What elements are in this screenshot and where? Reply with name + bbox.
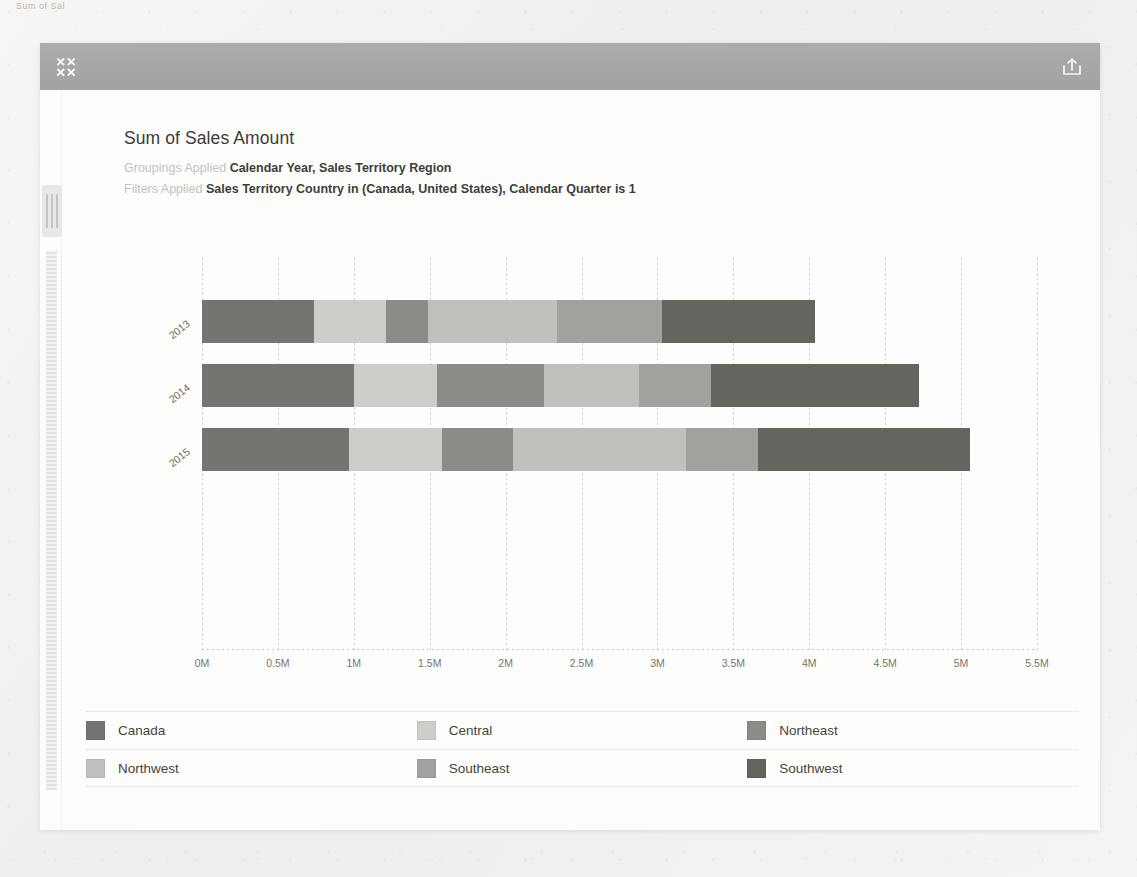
x-axis-tick-label: 4.5M xyxy=(874,657,897,669)
panel-left-spine xyxy=(40,90,62,830)
bar-segment[interactable] xyxy=(662,300,815,343)
legend-item-central[interactable]: Central xyxy=(417,721,748,740)
legend-item-canada[interactable]: Canada xyxy=(86,721,417,740)
x-axis-tick-label: 0.5M xyxy=(266,657,289,669)
groupings-applied-row: Groupings Applied Calendar Year, Sales T… xyxy=(124,158,1066,179)
drag-handle[interactable] xyxy=(42,185,62,237)
x-axis-tick-label: 3M xyxy=(650,657,665,669)
bar-segment[interactable] xyxy=(442,428,513,471)
bar-segment[interactable] xyxy=(557,300,662,343)
legend-label: Northwest xyxy=(118,761,179,776)
y-axis-category-label: 2014 xyxy=(166,381,192,405)
legend-row: CanadaCentralNortheast xyxy=(86,711,1078,749)
collapse-arrows-icon[interactable] xyxy=(54,55,78,79)
x-axis-tick-label: 0M xyxy=(195,657,210,669)
bar-segment[interactable] xyxy=(354,364,438,407)
bar-segment[interactable] xyxy=(202,428,349,471)
legend-label: Northeast xyxy=(779,723,838,738)
legend-label: Central xyxy=(449,723,493,738)
legend-label: Southwest xyxy=(779,761,842,776)
chart-legend: CanadaCentralNortheastNorthwestSoutheast… xyxy=(86,711,1078,787)
groupings-applied-label: Groupings Applied xyxy=(124,161,226,175)
corner-text: Sum of Sal xyxy=(16,1,65,11)
bar-row: 2015 xyxy=(202,428,1037,471)
x-axis-tick-label: 5.5M xyxy=(1025,657,1048,669)
filters-applied-label: Filters Applied xyxy=(124,182,203,196)
report-panel: Sum of Sales Amount Groupings Applied Ca… xyxy=(40,43,1100,830)
legend-swatch-icon xyxy=(86,721,105,740)
bar-segment[interactable] xyxy=(711,364,919,407)
legend-swatch-icon xyxy=(417,721,436,740)
x-axis-tick-label: 2.5M xyxy=(570,657,593,669)
scroll-rail[interactable] xyxy=(46,250,57,790)
legend-item-southwest[interactable]: Southwest xyxy=(747,759,1078,778)
bar-track xyxy=(202,428,1037,471)
bar-segment[interactable] xyxy=(349,428,442,471)
x-axis-tick-label: 2M xyxy=(498,657,513,669)
y-axis-category-label: 2013 xyxy=(166,317,192,341)
legend-swatch-icon xyxy=(86,759,105,778)
bar-track xyxy=(202,300,1037,343)
bar-row: 2014 xyxy=(202,364,1037,407)
x-axis-line xyxy=(202,649,1037,650)
y-axis-category-label: 2015 xyxy=(166,445,192,469)
x-axis-tick-label: 3.5M xyxy=(722,657,745,669)
bar-segment[interactable] xyxy=(202,364,354,407)
filters-applied-row: Filters Applied Sales Territory Country … xyxy=(124,179,1066,200)
x-axis-tick-label: 1M xyxy=(347,657,362,669)
bar-segment[interactable] xyxy=(202,300,314,343)
bar-segment[interactable] xyxy=(513,428,686,471)
x-axis-tick-label: 5M xyxy=(954,657,969,669)
legend-item-northeast[interactable]: Northeast xyxy=(747,721,1078,740)
groupings-applied-value: Calendar Year, Sales Territory Region xyxy=(230,161,452,175)
stacked-bar-chart: 201320142015 0M0.5M1M1.5M2M2.5M3M3.5M4M4… xyxy=(124,258,1049,688)
bar-row: 2013 xyxy=(202,300,1037,343)
page-title: Sum of Sales Amount xyxy=(124,128,1066,149)
bar-segment[interactable] xyxy=(428,300,557,343)
legend-swatch-icon xyxy=(747,721,766,740)
legend-item-southeast[interactable]: Southeast xyxy=(417,759,748,778)
bar-segment[interactable] xyxy=(386,300,429,343)
legend-swatch-icon xyxy=(417,759,436,778)
bar-segment[interactable] xyxy=(639,364,710,407)
x-axis-tick-label: 1.5M xyxy=(418,657,441,669)
legend-label: Canada xyxy=(118,723,165,738)
x-axis-tick-label: 4M xyxy=(802,657,817,669)
bar-segment[interactable] xyxy=(686,428,757,471)
legend-item-northwest[interactable]: Northwest xyxy=(86,759,417,778)
bar-segment[interactable] xyxy=(314,300,385,343)
bar-segment[interactable] xyxy=(544,364,640,407)
legend-label: Southeast xyxy=(449,761,510,776)
gridline xyxy=(1037,258,1038,650)
legend-swatch-icon xyxy=(747,759,766,778)
legend-row: NorthwestSoutheastSouthwest xyxy=(86,749,1078,787)
share-export-icon[interactable] xyxy=(1060,55,1084,79)
bar-segment[interactable] xyxy=(437,364,543,407)
panel-header xyxy=(40,43,1100,90)
filters-applied-value: Sales Territory Country in (Canada, Unit… xyxy=(206,182,636,196)
plot-area: 201320142015 0M0.5M1M1.5M2M2.5M3M3.5M4M4… xyxy=(202,258,1037,650)
bar-rows: 201320142015 xyxy=(202,300,1037,492)
bar-segment[interactable] xyxy=(758,428,971,471)
bar-track xyxy=(202,364,1037,407)
